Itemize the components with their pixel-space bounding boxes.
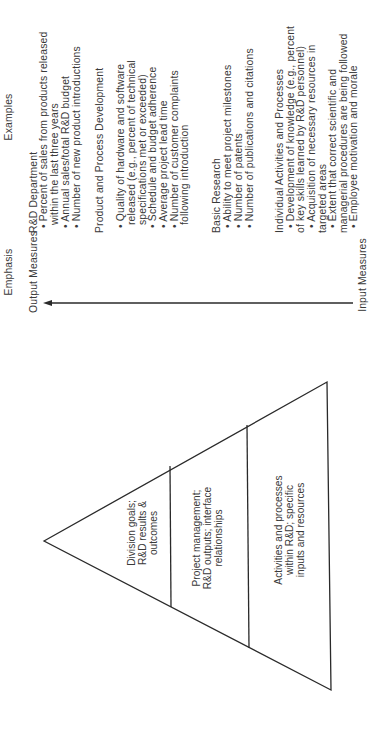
list-item: • Number of publications and citations [244, 48, 255, 228]
pyramid-tier-division-goals: Division goals; R&D results & outcomes [126, 500, 159, 566]
list-item: • Acquisition of necessary resources in [306, 45, 317, 228]
list-item: • Quality of hardware and software [115, 64, 126, 228]
tier-line: outcomes [148, 500, 159, 566]
list-item-continuation: following introduction [179, 125, 190, 225]
list-item: • Average project lead time [158, 100, 169, 228]
pyramid-divider-2 [247, 425, 249, 648]
group-heading: Product and Process Development [94, 68, 105, 233]
tier-line: Project management; [191, 487, 202, 590]
list-item-continuation: within the last three years [49, 103, 60, 225]
group-heading: Individual Activities and Processes [274, 69, 285, 233]
list-item: • Number of patents [233, 133, 244, 228]
pyramid-tier-activities: Activities and processes within R&D; spe… [273, 475, 306, 584]
pyramid-tier-project-management: Project management; R&D outputs; interfa… [191, 487, 224, 590]
list-item: • Schedule and budget adherence [147, 67, 158, 228]
list-item: • Employee motivation and morale [348, 65, 359, 228]
tier-line: Division goals; [126, 500, 137, 566]
list-item-continuation: of key skills learned by R&D personnel) [295, 46, 306, 233]
examples-title: Examples [3, 94, 14, 141]
list-item: • Percent of sales from products release… [38, 32, 49, 228]
list-item: • Number of new product introductions [71, 46, 82, 228]
list-item-continuation: released (e.g., percent of technical [126, 60, 137, 225]
input-measures-label: Input Measures [357, 238, 368, 312]
tier-line: inputs and resources [295, 475, 306, 584]
tier-line: relationships [213, 487, 224, 590]
pyramid-divider-1 [170, 466, 171, 607]
tier-line: Activities and processes [273, 475, 284, 584]
list-item: • Ability to meet project milestones [222, 65, 233, 228]
tier-line: R&D results & [137, 500, 148, 566]
list-item: • Extent that correct scientific and [327, 69, 338, 228]
group-heading: Basic Research [211, 158, 222, 233]
tier-line: R&D outputs; interface [202, 487, 213, 590]
arrow-head-icon [43, 300, 52, 306]
rnd-measures-diagram: Examples Emphasis Output Measures Input … [0, 0, 378, 736]
tier-line: within R&D; specific [284, 475, 295, 584]
list-item: • Annual sales/total R&D budget [60, 76, 71, 228]
output-measures-label: Output Measures [28, 231, 39, 313]
emphasis-title: Emphasis [3, 249, 14, 296]
